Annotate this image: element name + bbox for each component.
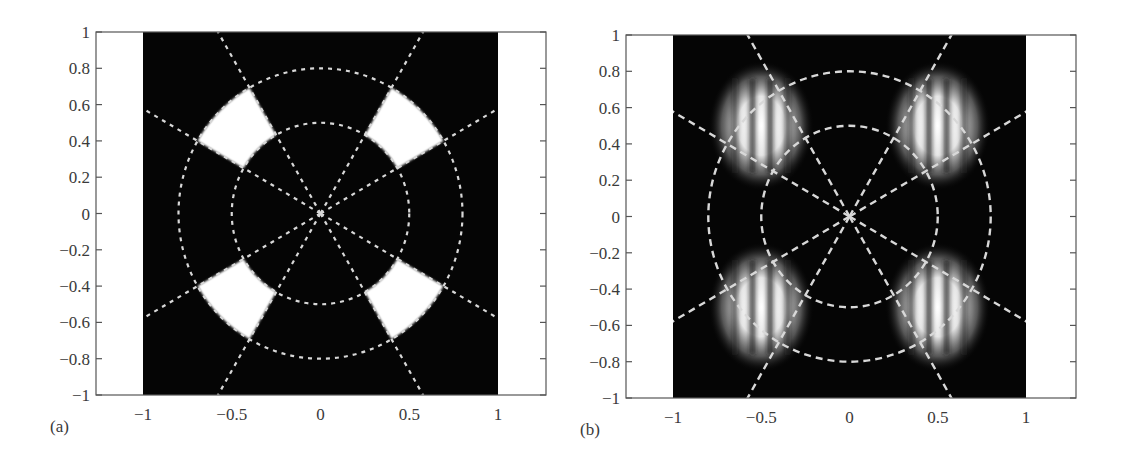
y-tick-label: 0.6 (69, 96, 90, 115)
y-tick-label: −0.2 (59, 241, 90, 260)
x-tick-label: −1 (134, 405, 152, 424)
y-tick-label: −1 (602, 389, 620, 408)
y-tick-label: −0.6 (589, 316, 620, 335)
y-tick-label: −0.8 (589, 353, 620, 372)
image-field (128, 17, 512, 410)
x-tick-label: 1 (494, 405, 503, 424)
y-tick-label: −0.4 (589, 280, 620, 299)
x-tick-label: −0.5 (746, 408, 777, 427)
y-tick-label: 1 (82, 23, 91, 42)
y-tick-label: 1 (612, 26, 621, 45)
y-tick-label: −0.8 (59, 350, 90, 369)
intensity-lobe (708, 60, 814, 191)
y-tick-label: −0.4 (59, 277, 90, 296)
x-tick-label: −0.5 (216, 405, 247, 424)
y-tick-label: 0.8 (599, 62, 620, 81)
x-tick-label: 0 (316, 405, 325, 424)
panel-label: (a) (50, 417, 69, 436)
panel-a: 10.80.60.40.20−0.2−0.4−0.6−0.8−1−1−0.500… (50, 17, 546, 436)
y-tick-label: 0.4 (69, 132, 91, 151)
y-tick-label: 0.2 (599, 171, 620, 190)
x-tick-label: −1 (664, 408, 682, 427)
y-tick-label: 0.8 (69, 59, 90, 78)
y-tick-label: 0.4 (599, 135, 621, 154)
y-tick-label: 0.6 (599, 99, 620, 118)
figure: 10.80.60.40.20−0.2−0.4−0.6−0.8−1−1−0.500… (0, 0, 1123, 457)
x-tick-label: 0 (845, 408, 854, 427)
panel-label: (b) (580, 420, 600, 439)
y-tick-label: −0.2 (589, 244, 620, 263)
image-field (658, 20, 1040, 413)
y-tick-label: −0.6 (59, 313, 90, 332)
x-tick-label: 0.5 (927, 408, 948, 427)
y-tick-label: −1 (72, 386, 90, 405)
y-tick-label: 0 (612, 208, 621, 227)
panel-b: 10.80.60.40.20−0.2−0.4−0.6−0.8−1−1−0.500… (580, 20, 1076, 439)
y-tick-label: 0 (82, 205, 91, 224)
x-tick-label: 1 (1022, 408, 1031, 427)
x-tick-label: 0.5 (399, 405, 420, 424)
y-tick-label: 0.2 (69, 168, 90, 187)
